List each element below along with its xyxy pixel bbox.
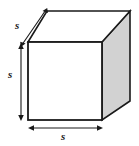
- cube-front-face: [28, 42, 102, 120]
- cube-illustration: [0, 0, 139, 146]
- width-dimension-arrow: [28, 125, 103, 131]
- depth-label: s: [15, 20, 19, 31]
- cube-diagram: s s s: [0, 0, 139, 146]
- height-label: s: [8, 69, 12, 80]
- width-label: s: [61, 131, 65, 142]
- height-dimension-arrow: [18, 43, 24, 121]
